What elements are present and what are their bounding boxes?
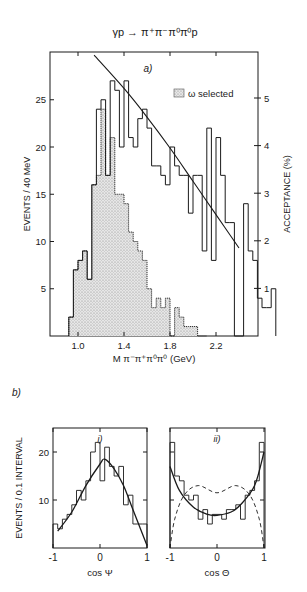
y2-tick-label: 4: [264, 140, 269, 151]
x-axis-label-cos-theta: cos Θ: [205, 567, 230, 578]
x-axis-label-cos-psi: cos Ψ: [87, 567, 112, 578]
y-axis-label-events: EVENTS / 40 MeV: [22, 157, 32, 232]
panel-b-i-cos-psi: 1020-101 i) cos Ψ: [38, 428, 150, 578]
legend-swatch-stippled: [174, 89, 184, 97]
x-tick-label: -1: [49, 552, 58, 563]
reaction-title: γp → π⁺π⁻π⁰π⁰p: [112, 26, 197, 38]
y-tick-label: 10: [38, 495, 49, 506]
x-tick-label: 0: [214, 552, 220, 563]
y2-tick-label: 5: [264, 93, 269, 104]
x-tick-label: -1: [166, 552, 175, 563]
y2-tick-label: 1: [264, 283, 269, 294]
y-tick-label: 15: [35, 189, 46, 200]
x-tick-label: 1: [144, 552, 150, 563]
y-tick-label: 10: [35, 236, 46, 247]
y-tick-label: 20: [35, 142, 46, 153]
x-tick-label: 1.4: [117, 340, 130, 351]
y2-axis-label-acceptance: ACCEPTANCE (%): [282, 155, 292, 232]
x-tick-label: 0: [97, 552, 103, 563]
panel-b-i-label: i): [98, 434, 103, 444]
panel-a-label: a): [144, 63, 153, 74]
y-axis-label-b: EVENTS / 0.1 INTERVAL: [14, 437, 24, 539]
x-tick-label: 1.8: [163, 340, 176, 351]
figure-canvas: γp → π⁺π⁻π⁰π⁰p 510152025123451.01.41.82.…: [0, 0, 307, 592]
x-axis-label-mass: M π⁻π⁺π⁰π⁰ (GeV): [113, 353, 196, 364]
y-tick-label: 5: [41, 283, 46, 294]
panel-b-label: b): [12, 387, 21, 398]
legend-omega-selected: ω selected: [188, 88, 233, 99]
x-tick-label: 1: [261, 552, 267, 563]
panel-b-ii-label: ii): [214, 434, 221, 444]
x-tick-label: 2.2: [209, 340, 222, 351]
y2-tick-label: 2: [264, 235, 269, 246]
panel-b-ii-cos-theta: -101 ii) cos Θ: [166, 428, 268, 578]
y2-tick-label: 3: [264, 188, 269, 199]
y-tick-label: 25: [35, 94, 46, 105]
x-tick-label: 1.0: [71, 340, 84, 351]
y-tick-label: 20: [38, 447, 49, 458]
panel-a-histogram: 510152025123451.01.41.82.2 a) ω selected…: [22, 52, 292, 364]
